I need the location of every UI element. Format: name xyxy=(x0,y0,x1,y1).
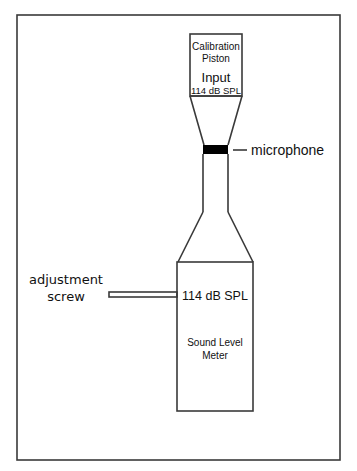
piston-label-line1: Calibration xyxy=(192,41,240,52)
input-level: 114 dB SPL xyxy=(191,85,241,96)
meter-reading: 114 dB SPL xyxy=(182,289,248,303)
microphone-label: microphone xyxy=(251,142,324,158)
calibration-diagram: Calibration Piston Input 114 dB SPL micr… xyxy=(0,0,357,471)
meter-label-line1: Sound Level xyxy=(187,337,243,348)
meter-label-line2: Meter xyxy=(202,350,228,361)
piston-label-line2: Piston xyxy=(202,53,230,64)
meter-flare xyxy=(178,212,253,262)
input-label: Input xyxy=(202,70,231,85)
adjustment-label-line2: screw xyxy=(47,289,85,304)
microphone-block xyxy=(203,145,228,154)
microphone-shaft xyxy=(203,154,228,212)
piston-funnel xyxy=(190,96,242,145)
adjustment-label-line1: adjustment xyxy=(29,272,103,287)
adjustment-screw xyxy=(109,292,177,297)
outer-frame xyxy=(17,15,340,460)
